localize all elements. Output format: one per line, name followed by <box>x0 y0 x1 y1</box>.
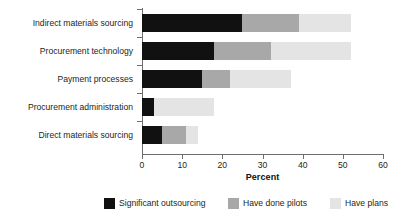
bar-segment <box>242 14 298 32</box>
stacked-bar-chart: Indirect materials sourcingProcurement t… <box>0 0 408 222</box>
bar-stack <box>142 14 351 32</box>
bar-segment <box>142 42 214 60</box>
bar-segment <box>271 42 351 60</box>
y-axis-tick <box>137 93 142 94</box>
bar-segment <box>142 126 162 144</box>
x-axis-title: Percent <box>142 172 383 182</box>
bar-segment <box>162 126 186 144</box>
category-label: Indirect materials sourcing <box>0 14 133 32</box>
legend-swatch-icon <box>228 198 239 209</box>
bar-segment <box>142 98 154 116</box>
bar-stack <box>142 42 351 60</box>
x-axis-tick <box>303 154 304 159</box>
chart-legend: Significant outsourcingHave done pilotsH… <box>0 196 408 214</box>
x-axis-tick-label: 60 <box>368 160 398 171</box>
bar-stack <box>142 126 198 144</box>
x-axis-tick <box>343 154 344 159</box>
category-label: Procurement administration <box>0 98 133 116</box>
y-axis-tick <box>137 9 142 10</box>
category-label: Procurement technology <box>0 42 133 60</box>
bar-stack <box>142 98 214 116</box>
x-axis-tick-label: 20 <box>207 160 237 171</box>
x-axis-tick-label: 40 <box>288 160 318 171</box>
bar-segment <box>299 14 351 32</box>
category-label: Payment processes <box>0 70 133 88</box>
legend-item[interactable]: Significant outsourcing <box>104 196 205 210</box>
bar-segment <box>214 42 270 60</box>
bar-segment <box>230 70 290 88</box>
legend-label: Significant outsourcing <box>119 198 205 209</box>
x-axis-tick <box>142 154 143 159</box>
legend-item[interactable]: Have done pilots <box>228 196 307 210</box>
y-axis-tick <box>137 121 142 122</box>
bar-segment <box>142 70 202 88</box>
bar-segment <box>202 70 230 88</box>
legend-swatch-icon <box>104 198 115 209</box>
legend-label: Have plans <box>345 198 388 209</box>
x-axis-tick <box>263 154 264 159</box>
y-axis-tick <box>137 37 142 38</box>
x-axis-tick-label: 10 <box>167 160 197 171</box>
legend-swatch-icon <box>330 198 341 209</box>
x-axis-tick <box>383 154 384 159</box>
legend-item[interactable]: Have plans <box>330 196 388 210</box>
category-label: Direct materials sourcing <box>0 126 133 144</box>
x-axis-tick-label: 50 <box>328 160 358 171</box>
legend-label: Have done pilots <box>243 198 307 209</box>
bar-segment <box>186 126 198 144</box>
x-axis-tick-label: 30 <box>248 160 278 171</box>
x-axis-tick-label: 0 <box>127 160 157 171</box>
x-axis-tick <box>222 154 223 159</box>
bar-stack <box>142 70 291 88</box>
bar-segment <box>142 14 242 32</box>
y-axis-tick <box>137 65 142 66</box>
x-axis-tick <box>182 154 183 159</box>
bar-segment <box>154 98 214 116</box>
